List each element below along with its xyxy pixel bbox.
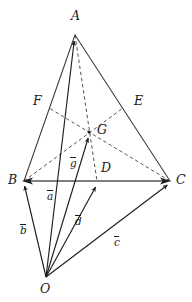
vector-label-g: g — [70, 157, 77, 169]
diagram-canvas — [0, 0, 192, 302]
vector-c-O-to-C — [46, 185, 167, 277]
vector-label-d-text: d — [75, 215, 82, 227]
vector-label-d: d — [75, 215, 82, 227]
vector-label-c-text: c — [114, 236, 120, 248]
vertex-label-G: G — [97, 124, 107, 137]
vector-geometry-figure: A B C O D E F G a b c d g — [0, 0, 192, 302]
edge-A-B — [24, 35, 75, 181]
dashed-medians — [24, 35, 170, 181]
vertex-label-D: D — [101, 162, 111, 175]
vector-d-O-to-D — [46, 187, 96, 277]
vertex-label-C: C — [176, 174, 186, 187]
vertex-label-F: F — [33, 95, 42, 108]
vector-label-b-text: b — [20, 224, 27, 236]
edge-A-C — [75, 35, 170, 181]
vertex-label-E: E — [134, 95, 143, 108]
centroid-point-G — [88, 131, 91, 134]
position-vectors — [25, 41, 168, 277]
vector-b-O-to-B — [25, 186, 46, 277]
vertex-label-A: A — [71, 10, 80, 23]
vector-label-b: b — [20, 224, 27, 236]
solid-edges — [24, 35, 170, 277]
vector-label-g-text: g — [70, 157, 77, 169]
vertex-label-B: B — [8, 174, 17, 187]
vector-label-a: a — [47, 190, 53, 202]
vector-label-a-text: a — [47, 190, 53, 202]
point-G-dot — [88, 131, 91, 134]
vector-label-c: c — [114, 236, 120, 248]
vector-g-O-to-G — [46, 138, 88, 277]
median-A-D — [75, 35, 97, 181]
vertex-label-O: O — [40, 283, 50, 296]
